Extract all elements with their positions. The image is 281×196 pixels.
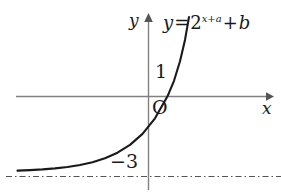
equation-equals-sign: = — [173, 12, 190, 33]
curve-equation-label: y=2x+a+b — [163, 14, 250, 32]
y-axis-label: y — [129, 12, 139, 29]
equation-exponent: x+a — [202, 13, 222, 24]
x-axis-label: x — [262, 100, 272, 117]
equation-constant: b — [239, 12, 251, 33]
x-axis — [16, 92, 274, 101]
equation-plus-sign: + — [222, 12, 239, 33]
y-intercept-tick-label: 1 — [155, 62, 167, 81]
exponential-function-graph: y x O 1 −3 y=2x+a+b — [0, 0, 281, 196]
y-axis-arrowhead — [144, 13, 153, 22]
equation-lhs: y — [163, 12, 173, 33]
equation-base: 2 — [190, 12, 201, 33]
asymptote-value-label: −3 — [110, 152, 138, 171]
exponential-curve — [18, 17, 190, 171]
origin-label: O — [152, 98, 168, 117]
